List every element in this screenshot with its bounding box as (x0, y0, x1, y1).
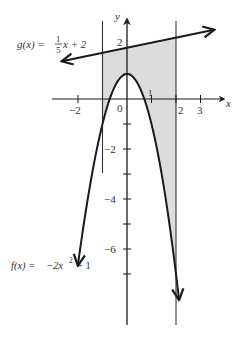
shaded-region (103, 39, 177, 274)
x-tick-label-2: 2 (178, 104, 184, 116)
g-label-suffix: x + 2 (62, 38, 87, 50)
y-axis-label: y (114, 10, 120, 22)
f-label-coef: −2x (46, 260, 63, 271)
g-frac-numerator: 1 (56, 34, 61, 44)
f-label-suffix: + 1 (77, 260, 91, 271)
x-tick-label-1: 1 (148, 88, 153, 98)
g-label-prefix: g(x) = (17, 38, 45, 51)
graph-canvas: x y −2 0 2 3 1 2 −2 −4 −6 g(x) = 1 5 x +… (0, 0, 244, 338)
g-frac-denominator: 5 (56, 45, 61, 55)
f-label-exponent: 2 (69, 256, 73, 265)
f-label-prefix: f(x) = (11, 260, 35, 272)
x-tick-label-neg2: −2 (69, 104, 81, 116)
x-axis-label: x (225, 97, 231, 109)
x-tick-label-0: 0 (117, 102, 123, 114)
g-function-label: g(x) = 1 5 x + 2 (17, 34, 87, 55)
y-tick-label-2: 2 (117, 36, 123, 48)
y-tick-label-neg2: −2 (104, 143, 116, 155)
y-tick-label-neg4: −4 (104, 193, 116, 205)
x-tick-label-3: 3 (197, 104, 203, 116)
y-tick-label-neg6: −6 (104, 243, 116, 255)
